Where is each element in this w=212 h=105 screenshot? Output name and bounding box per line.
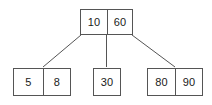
root-key-cell-1: 60: [107, 10, 132, 34]
leaf-node-middle: 30: [93, 68, 121, 96]
leaf-right-key-cell-0: 80: [148, 69, 175, 95]
leaf-right-key-cell-1: 90: [175, 69, 202, 95]
leaf-middle-key-cell-0: 30: [94, 69, 120, 95]
leaf-node-left: 5 8: [13, 68, 71, 96]
edge-root-to-right-leaf: [132, 35, 175, 67]
leaf-left-key-cell-0: 5: [14, 69, 43, 95]
leaf-node-right: 80 90: [147, 68, 203, 96]
btree-diagram: 10 60 5 8 30 80 90: [0, 0, 212, 105]
root-node: 10 60: [80, 9, 133, 35]
root-key-cell-0: 10: [81, 10, 107, 34]
edge-root-to-left-leaf: [43, 35, 81, 67]
leaf-left-key-cell-1: 8: [43, 69, 70, 95]
